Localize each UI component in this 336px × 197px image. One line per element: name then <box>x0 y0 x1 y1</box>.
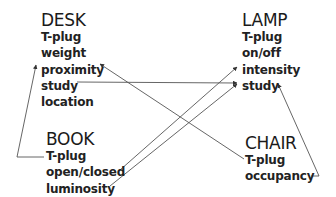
node-item: occupancy <box>245 168 314 184</box>
node-item: intensity <box>242 62 300 78</box>
node-item: luminosity <box>46 181 125 197</box>
node-title: CHAIR <box>245 134 314 152</box>
node-item: on/off <box>242 45 300 61</box>
node-item: location <box>41 94 104 110</box>
node-item: study <box>41 78 104 94</box>
node-item: T-plug <box>245 152 314 168</box>
node-title: DESK <box>41 11 104 29</box>
node-title: BOOK <box>46 130 125 148</box>
node-item: open/closed <box>46 164 125 180</box>
node-book: BOOK T-plug open/closed luminosity <box>46 130 125 197</box>
node-item: study <box>242 78 300 94</box>
node-item: proximity <box>41 62 104 78</box>
edge-book-luminosity-to-lamp-study <box>110 84 237 186</box>
node-lamp: LAMP T-plug on/off intensity study <box>242 11 300 94</box>
node-item: T-plug <box>46 148 125 164</box>
node-item: T-plug <box>242 29 300 45</box>
node-item: T-plug <box>41 29 104 45</box>
edge-book-tplug-to-desk-proximity <box>17 65 44 157</box>
node-item: weight <box>41 45 104 61</box>
node-chair: CHAIR T-plug occupancy <box>245 134 314 185</box>
node-title: LAMP <box>242 11 300 29</box>
node-desk: DESK T-plug weight proximity study locat… <box>41 11 104 110</box>
